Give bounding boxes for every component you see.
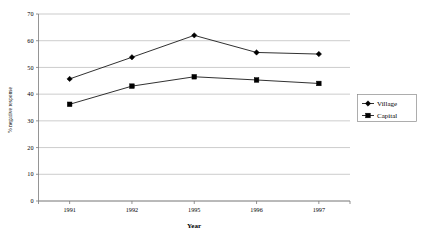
- x-tick-label: 1997: [313, 206, 325, 213]
- legend: VillageCapital: [358, 95, 417, 122]
- legend-label-capital: Capital: [377, 112, 397, 120]
- chart-container: 706050403020100 19911992199519961997 % n…: [0, 0, 421, 240]
- data-point-capital-1992: [130, 84, 135, 89]
- x-tick-label: 1996: [250, 206, 262, 213]
- y-tick-label: 30: [27, 117, 33, 124]
- line-chart: 706050403020100 19911992199519961997 % n…: [0, 0, 421, 240]
- legend-marker-capital: [366, 113, 371, 118]
- y-tick-label: 20: [27, 144, 33, 151]
- y-tick-label: 50: [27, 64, 33, 71]
- y-tick-label: 40: [27, 90, 33, 97]
- y-tick-label: 70: [27, 10, 33, 17]
- x-axis-title: Year: [187, 222, 201, 230]
- x-tick-label: 1992: [126, 206, 138, 213]
- data-point-capital-1997: [317, 81, 322, 86]
- y-tick-label: 10: [27, 170, 33, 177]
- x-tick-label: 1995: [188, 206, 200, 213]
- y-axis-title: % negative response: [7, 86, 13, 132]
- data-point-capital-1991: [67, 102, 72, 107]
- legend-label-village: Village: [377, 100, 397, 108]
- y-tick-label: 60: [27, 37, 33, 44]
- data-point-capital-1995: [192, 74, 197, 79]
- y-tick-label: 0: [30, 197, 33, 204]
- data-point-capital-1996: [254, 78, 259, 83]
- x-tick-label: 1991: [63, 206, 75, 213]
